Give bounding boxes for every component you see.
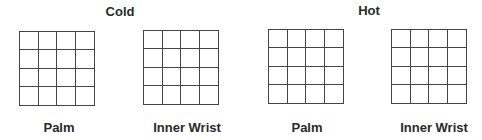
hot-palm-grid: [268, 29, 344, 104]
grid-cell: [325, 48, 344, 66]
grid-cell: [269, 67, 288, 85]
grid-cell: [144, 31, 163, 49]
grid-cell: [76, 50, 95, 68]
grid-cell: [429, 67, 448, 85]
grid-cell: [181, 49, 200, 67]
grid-cell: [76, 69, 95, 87]
grid-cell: [411, 67, 430, 85]
grid-cell: [163, 31, 182, 49]
grid-cell: [288, 30, 307, 48]
grid-cell: [269, 30, 288, 48]
grid-cell: [288, 67, 307, 85]
cold-inner-wrist-grid: [143, 30, 219, 105]
grid-cell: [392, 30, 411, 48]
grid-cell: [20, 32, 39, 50]
grid-cell: [57, 69, 76, 87]
grid-cell: [269, 85, 288, 103]
grid-cell: [39, 50, 58, 68]
grid-cell: [57, 87, 76, 105]
grid-cell: [269, 48, 288, 66]
grid-cell: [288, 85, 307, 103]
grid-cell: [144, 68, 163, 86]
grid-cell: [448, 48, 467, 66]
grid-cell: [163, 68, 182, 86]
grid-cell: [20, 87, 39, 105]
grid-cell: [76, 32, 95, 50]
grid-cell: [306, 67, 325, 85]
grid-cell: [429, 85, 448, 103]
hot-title: Hot: [358, 4, 380, 17]
hot-inner-wrist-grid: [391, 29, 467, 104]
grid-cell: [325, 67, 344, 85]
grid-cell: [20, 69, 39, 87]
cold-palm-grid: [19, 31, 95, 106]
grid-cell: [20, 50, 39, 68]
grid-cell: [448, 85, 467, 103]
grid-cell: [325, 30, 344, 48]
grid-cell: [200, 31, 219, 49]
grid-cell: [392, 85, 411, 103]
grid-cell: [163, 86, 182, 104]
grid-cell: [200, 49, 219, 67]
grid-cell: [306, 48, 325, 66]
grid-cell: [181, 31, 200, 49]
grid-cell: [76, 87, 95, 105]
grid-cell: [181, 86, 200, 104]
cold-palm-label: Palm: [43, 121, 74, 134]
grid-cell: [288, 48, 307, 66]
grid-cell: [200, 86, 219, 104]
hot-inner-wrist-label: Inner Wrist: [400, 121, 468, 134]
cold-title: Cold: [106, 5, 135, 18]
grid-cell: [392, 67, 411, 85]
grid-cell: [429, 30, 448, 48]
grid-cell: [39, 87, 58, 105]
grid-cell: [448, 30, 467, 48]
grid-cell: [448, 67, 467, 85]
grid-cell: [57, 32, 76, 50]
grid-cell: [181, 68, 200, 86]
grid-cell: [144, 86, 163, 104]
grid-cell: [411, 48, 430, 66]
grid-cell: [325, 85, 344, 103]
cold-inner-wrist-label: Inner Wrist: [153, 121, 221, 134]
grid-cell: [306, 85, 325, 103]
grid-cell: [392, 48, 411, 66]
grid-cell: [411, 30, 430, 48]
grid-cell: [306, 30, 325, 48]
grid-cell: [163, 49, 182, 67]
grid-cell: [39, 69, 58, 87]
grid-cell: [144, 49, 163, 67]
hot-palm-label: Palm: [291, 121, 322, 134]
grid-cell: [57, 50, 76, 68]
grid-cell: [200, 68, 219, 86]
grid-cell: [411, 85, 430, 103]
grid-cell: [39, 32, 58, 50]
grid-cell: [429, 48, 448, 66]
